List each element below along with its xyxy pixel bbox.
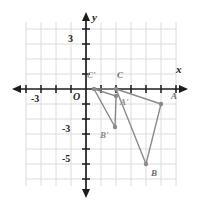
y-axis-arrow-down	[82, 189, 90, 198]
point-label-A-prime: A'	[120, 98, 129, 107]
y-tick-label-3: 3	[68, 34, 73, 44]
point-label-C-prime: C'	[87, 71, 96, 80]
x-axis-arrow-right	[179, 85, 188, 93]
x-axis-label: x	[176, 64, 182, 75]
point-label-B: B	[151, 169, 157, 178]
origin-label: O	[73, 92, 80, 102]
point-label-A: A	[171, 92, 177, 101]
vertex-B-prime	[113, 125, 117, 129]
vertex-B	[144, 162, 148, 166]
vertex-C-prime	[92, 87, 96, 91]
coordinate-plane-svg	[0, 0, 197, 204]
triangle-A-prime-B-prime-C-prime	[94, 89, 116, 127]
x-axis-arrow-left	[12, 85, 21, 93]
point-label-C: C	[117, 71, 123, 80]
grid-lines	[26, 22, 176, 186]
y-tick-label--5: -5	[62, 154, 70, 164]
point-label-B-prime: B'	[100, 131, 109, 140]
y-axis-label: y	[92, 12, 97, 23]
y-axis-arrow-up	[82, 12, 90, 21]
figure-canvas: x y O -3 3 -3 -5 A B C A' B' C'	[0, 0, 197, 204]
vertex-C	[114, 87, 118, 91]
x-tick-label--3: -3	[31, 94, 39, 104]
y-tick-label--3: -3	[62, 124, 70, 134]
vertex-A	[159, 102, 163, 106]
vertex-A-prime	[114, 94, 118, 98]
